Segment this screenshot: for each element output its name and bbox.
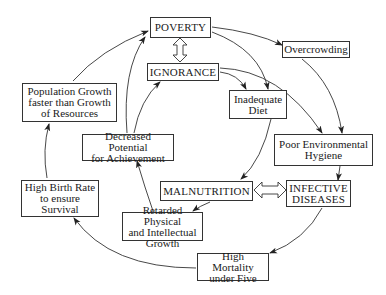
arrow-diet-malnutrition <box>241 119 271 179</box>
node-high-birth-rate: High Birth Rate to ensure Survival <box>21 180 99 217</box>
arrow-ignorance-diet <box>220 72 246 89</box>
node-infective-diseases: INFECTIVE DISEASES <box>286 180 351 207</box>
node-poverty: POVERTY <box>150 17 211 38</box>
node-population-growth: Population Growth faster than Growth of … <box>22 83 117 122</box>
node-inadequate-diet: Inadequate Diet <box>229 90 287 119</box>
node-ignorance: IGNORANCE <box>147 63 219 81</box>
node-retarded-growth: Retarded Physical and Intellectual Growt… <box>122 212 203 241</box>
double-arrow-poverty-ignorance <box>173 38 187 62</box>
node-decreased-potential: Decreased Potential for Achievement <box>82 134 174 161</box>
arrow-decreased-ignorance <box>134 82 160 133</box>
arrow-birthrate-population <box>45 124 49 178</box>
arrow-decreased-poverty <box>126 37 145 133</box>
node-malnutrition: MALNUTRITION <box>160 181 253 201</box>
arrow-overcrowding-hygiene <box>302 59 342 133</box>
node-poor-environmental-hygiene: Poor Environmental Hygiene <box>274 134 373 166</box>
node-overcrowding: Overcrowding <box>282 41 350 58</box>
arrow-hygiene-infective <box>338 166 340 180</box>
node-high-mortality: High Mortality under Five <box>197 253 269 281</box>
arrow-infective-mortality <box>270 208 322 253</box>
double-arrow-malnutrition-infective <box>254 182 286 198</box>
arrow-population-poverty <box>73 31 148 81</box>
